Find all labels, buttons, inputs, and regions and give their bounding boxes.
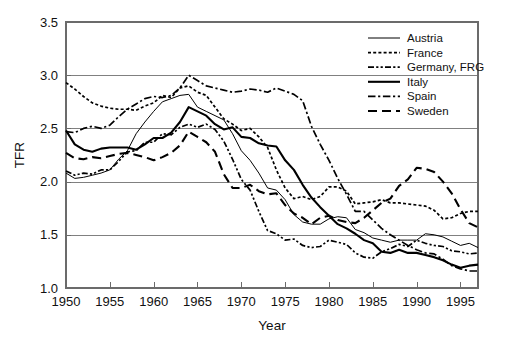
legend-label-france: France — [407, 47, 443, 59]
x-tick-label-1975: 1975 — [271, 294, 300, 309]
x-axis-title: Year — [258, 318, 286, 333]
x-tick-label-1970: 1970 — [227, 294, 256, 309]
y-tick-label-2.5: 2.5 — [40, 121, 58, 136]
x-tick-label-1990: 1990 — [402, 294, 431, 309]
legend-label-austria: Austria — [407, 32, 443, 44]
x-tick-label-1995: 1995 — [446, 294, 475, 309]
legend-label-italy: Italy — [407, 76, 428, 88]
x-tick-label-1960: 1960 — [139, 294, 168, 309]
y-axis-title: TFR — [12, 142, 27, 168]
tfr-line-chart: 1.01.52.02.53.03.5 195019551960196519701… — [0, 0, 505, 345]
legend-label-germany-frg: Germany, FRG — [407, 61, 484, 73]
x-tick-label-1980: 1980 — [315, 294, 344, 309]
legend-label-sweden: Sweden — [407, 105, 449, 117]
y-tick-label-3.0: 3.0 — [40, 68, 58, 83]
y-tick-label-1.5: 1.5 — [40, 227, 58, 242]
x-tick-label-1950: 1950 — [52, 294, 81, 309]
x-tick-label-1985: 1985 — [358, 294, 387, 309]
x-tick-label-1955: 1955 — [95, 294, 124, 309]
chart-canvas: 1.01.52.02.53.03.5 195019551960196519701… — [0, 0, 505, 345]
legend-label-spain: Spain — [407, 90, 436, 102]
y-tick-label-3.5: 3.5 — [40, 15, 58, 30]
x-tick-label-1965: 1965 — [183, 294, 212, 309]
y-tick-label-2.0: 2.0 — [40, 174, 58, 189]
